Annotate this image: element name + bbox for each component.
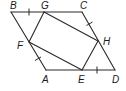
tick-marks <box>29 9 97 74</box>
label-d: D <box>112 74 119 85</box>
label-c: C <box>80 0 88 11</box>
label-a: A <box>41 74 49 85</box>
inner-quadrilateral-efgh <box>29 12 98 70</box>
parallelogram-diagram: B G C H D E A F <box>0 0 126 91</box>
outer-parallelogram-abcd <box>11 12 115 70</box>
label-f: F <box>17 40 24 51</box>
label-e: E <box>78 74 85 85</box>
segment-fg <box>29 12 44 42</box>
segment-he <box>82 41 98 70</box>
vertex-labels: B G C H D E A F <box>10 0 119 85</box>
label-h: H <box>103 36 111 47</box>
label-b: B <box>10 0 17 11</box>
label-g: G <box>41 0 49 11</box>
